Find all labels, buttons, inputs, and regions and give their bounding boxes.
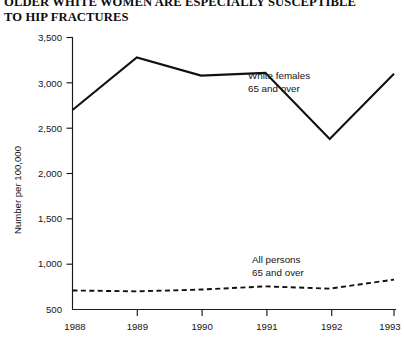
y-tick-label-3500: 3,500: [38, 32, 62, 43]
y-axis-title: Number per 100,000: [12, 146, 23, 234]
y-tick-label-2500: 2,500: [38, 123, 62, 134]
x-tick-label-1993: 1993: [379, 321, 400, 332]
series-label-white-females-line1: White females: [248, 70, 310, 81]
x-axis-ticks: [137, 310, 394, 317]
x-tick-label-1989: 1989: [127, 321, 148, 332]
chart-figure: OLDER WHITE WOMEN ARE ESPECIALLY SUSCEPT…: [0, 0, 404, 351]
y-axis-ticks: [67, 38, 73, 265]
y-tick-label-500: 500: [46, 304, 62, 315]
series-line-all-persons: [73, 280, 395, 292]
x-tick-label-1992: 1992: [321, 321, 342, 332]
axis-lines: [73, 37, 397, 310]
series-label-all-persons-line1: All persons: [252, 254, 301, 265]
x-tick-label-1988: 1988: [64, 321, 85, 332]
x-tick-label-1990: 1990: [191, 321, 212, 332]
y-tick-label-2000: 2,000: [38, 168, 62, 179]
line-chart-plot: Number per 100,000 3,500 3,000 2,500 2,0…: [0, 0, 404, 351]
series-label-all-persons-line2: 65 and over: [252, 267, 304, 278]
x-tick-label-1991: 1991: [256, 321, 277, 332]
y-tick-label-1000: 1,000: [38, 258, 62, 269]
y-tick-label-3000: 3,000: [38, 78, 62, 89]
series-label-white-females-line2: 65 and over: [248, 83, 300, 94]
y-tick-label-1500: 1,500: [38, 213, 62, 224]
series-line-white-females: [73, 57, 395, 139]
